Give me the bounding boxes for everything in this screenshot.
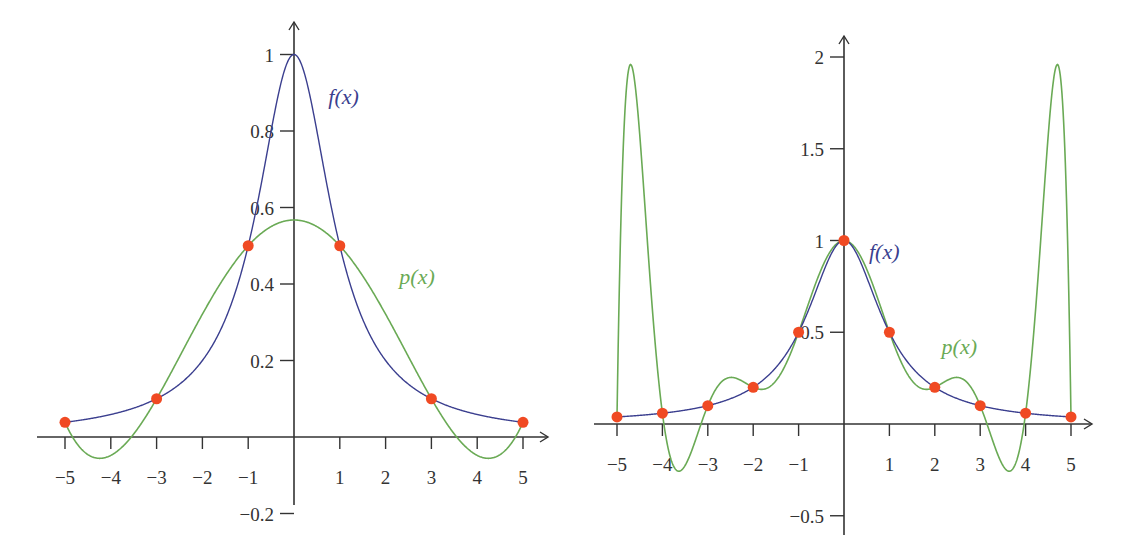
x-tick-label: −3 xyxy=(698,454,718,475)
runge-interpolation-figure: −5−4−3−2−112345−0.20.20.40.60.81f(x)p(x)… xyxy=(0,0,1130,559)
x-tick-label: 4 xyxy=(1021,454,1031,475)
y-tick-label: 0.4 xyxy=(250,274,274,295)
p-label: p(x) xyxy=(940,334,977,359)
y-tick-label: 1 xyxy=(815,231,825,252)
y-tick-label: 0.6 xyxy=(250,198,274,219)
f-label: f(x) xyxy=(328,84,359,109)
f-label: f(x) xyxy=(869,239,900,264)
interpolation-node xyxy=(702,400,713,411)
y-tick-label: 0.2 xyxy=(250,351,274,372)
x-tick-label: −2 xyxy=(192,467,212,488)
y-tick-label: −0.2 xyxy=(240,504,274,525)
x-tick-label: 1 xyxy=(335,467,345,488)
interpolation-node xyxy=(748,382,759,393)
chart-degree-5-interpolation: −5−4−3−2−112345−0.20.20.40.60.81f(x)p(x) xyxy=(37,22,548,525)
y-tick-label: 2 xyxy=(815,47,825,68)
interpolation-node xyxy=(657,408,668,419)
y-tick-label: −0.5 xyxy=(790,506,824,527)
x-tick-label: −4 xyxy=(101,467,122,488)
x-tick-label: 4 xyxy=(472,467,482,488)
x-tick-label: 5 xyxy=(518,467,528,488)
interpolation-node xyxy=(929,382,940,393)
x-tick-label: 2 xyxy=(930,454,940,475)
interpolation-node xyxy=(518,417,529,428)
interpolation-node xyxy=(839,235,850,246)
interpolation-node xyxy=(1020,408,1031,419)
x-tick-label: −5 xyxy=(55,467,75,488)
interpolation-node xyxy=(60,417,71,428)
interpolation-node xyxy=(243,240,254,251)
x-tick-label: −1 xyxy=(788,454,808,475)
p-label: p(x) xyxy=(397,264,434,289)
interpolation-node xyxy=(612,411,623,422)
x-tick-label: 1 xyxy=(885,454,895,475)
interpolation-node xyxy=(884,327,895,338)
x-tick-label: 5 xyxy=(1066,454,1076,475)
y-tick-label: 1 xyxy=(265,45,275,66)
x-tick-label: −3 xyxy=(146,467,166,488)
x-tick-label: −1 xyxy=(238,467,258,488)
chart-degree-10-interpolation: −5−4−3−2−112345−0.50.511.52f(x)p(x) xyxy=(594,36,1092,535)
x-tick-label: −5 xyxy=(607,454,627,475)
interpolation-node xyxy=(151,393,162,404)
x-tick-label: 2 xyxy=(381,467,391,488)
interpolation-node xyxy=(334,240,345,251)
x-tick-label: 3 xyxy=(975,454,985,475)
x-tick-label: 3 xyxy=(427,467,437,488)
interpolation-node xyxy=(1066,411,1077,422)
interpolation-node xyxy=(793,327,804,338)
interpolation-node xyxy=(975,400,986,411)
y-tick-label: 1.5 xyxy=(800,139,824,160)
interpolation-node xyxy=(426,393,437,404)
x-tick-label: −2 xyxy=(743,454,763,475)
